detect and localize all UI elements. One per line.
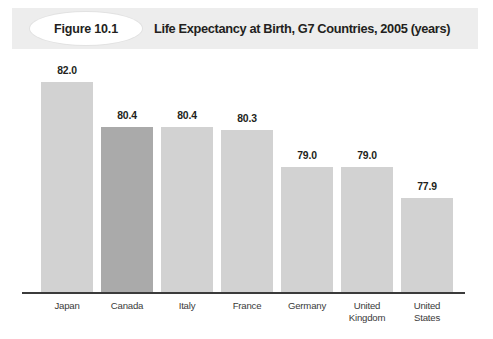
figure-number-label: Figure 10.1 xyxy=(30,12,142,45)
bar xyxy=(161,127,213,293)
bar-value-label: 79.0 xyxy=(329,150,405,161)
figure-header-band: Figure 10.1 Life Expectancy at Birth, G7… xyxy=(12,8,478,49)
bar-value-label: 80.3 xyxy=(209,113,285,124)
bar-value-label: 82.0 xyxy=(29,65,105,76)
bar xyxy=(101,127,153,293)
x-axis-tick-label-line: United xyxy=(389,300,465,312)
chart-plot-area: 82.080.480.480.379.079.077.9 xyxy=(22,60,465,293)
bar xyxy=(401,198,453,293)
x-axis-baseline xyxy=(22,292,465,294)
bar xyxy=(41,82,93,293)
figure-root: Figure 10.1 Life Expectancy at Birth, G7… xyxy=(0,0,493,339)
x-axis-tick-label: UnitedStates xyxy=(389,300,465,323)
figure-number-badge: Figure 10.1 xyxy=(30,12,142,45)
bar xyxy=(281,167,333,293)
bar-value-label: 77.9 xyxy=(389,181,465,192)
chart-title: Life Expectancy at Birth, G7 Countries, … xyxy=(154,8,450,49)
bar xyxy=(221,130,273,293)
bar xyxy=(341,167,393,293)
x-axis-tick-label-line: States xyxy=(389,312,465,324)
